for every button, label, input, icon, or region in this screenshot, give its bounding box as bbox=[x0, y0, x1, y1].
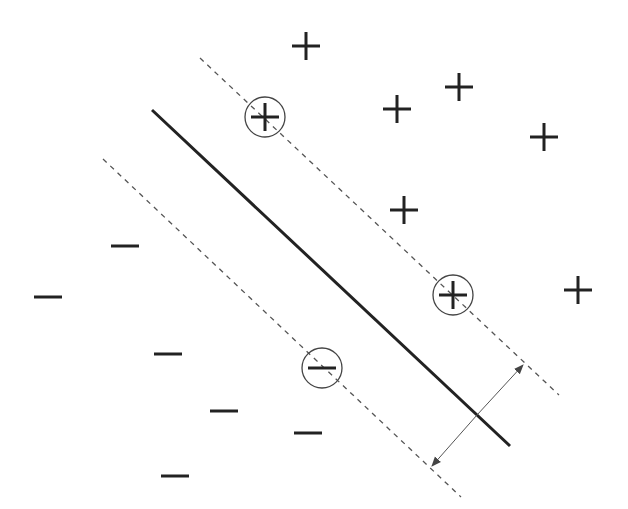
positive-point bbox=[383, 95, 411, 123]
margin-width-arrow bbox=[477, 365, 523, 415]
decision-boundary-line bbox=[152, 110, 510, 446]
negative-support-vector bbox=[302, 348, 342, 388]
positive-point bbox=[530, 123, 558, 151]
positive-point bbox=[292, 32, 320, 60]
margin-width-arrow-lower bbox=[432, 415, 477, 466]
positive-point bbox=[390, 196, 418, 224]
svm-diagram bbox=[0, 0, 628, 509]
positive-support-vector bbox=[433, 275, 473, 315]
positive-point bbox=[445, 73, 473, 101]
positive-point bbox=[564, 276, 592, 304]
positive-support-vector bbox=[245, 97, 285, 137]
positive-margin-line bbox=[200, 58, 559, 395]
